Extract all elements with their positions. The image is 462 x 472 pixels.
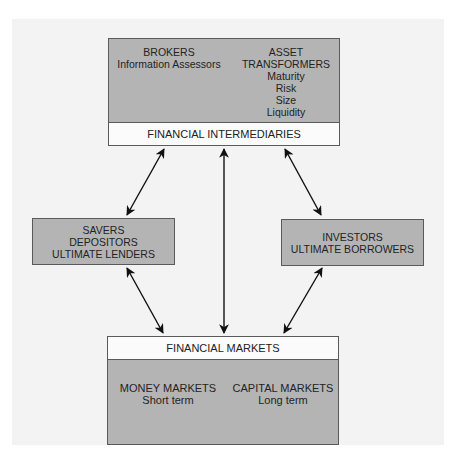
- connector-arrows: [0, 0, 462, 472]
- arrow-investors-markets: [284, 268, 322, 333]
- arrow-savers-markets: [127, 268, 163, 333]
- arrow-intermediaries-savers: [127, 149, 164, 215]
- arrow-intermediaries-investors: [285, 149, 321, 215]
